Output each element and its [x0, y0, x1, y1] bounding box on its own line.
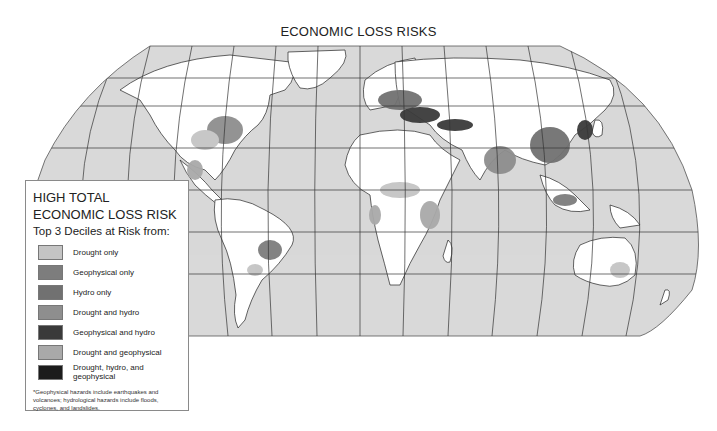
legend-swatch [38, 325, 63, 340]
legend-panel: HIGH TOTAL ECONOMIC LOSS RISK Top 3 Deci… [25, 180, 189, 411]
legend-label: Drought and hydro [73, 308, 139, 317]
legend-footnote: *Geophysical hazards include earthquakes… [33, 388, 181, 412]
legend-title: HIGH TOTAL ECONOMIC LOSS RISK [33, 189, 181, 223]
legend-item: Geophysical only [33, 262, 181, 282]
legend-label: Geophysical and hydro [73, 328, 155, 337]
legend-item: Drought and hydro [33, 302, 181, 322]
legend-swatch [38, 265, 63, 280]
legend-item: Drought, hydro, and geophysical [33, 362, 181, 382]
legend-item: Hydro only [33, 282, 181, 302]
legend-swatch [38, 305, 63, 320]
legend-swatch [38, 345, 63, 360]
legend-item: Geophysical and hydro [33, 322, 181, 342]
legend-item: Drought and geophysical [33, 342, 181, 362]
legend-label: Geophysical only [73, 268, 134, 277]
legend-label: Drought and geophysical [73, 348, 162, 357]
legend-label: Drought only [73, 248, 118, 257]
legend-swatch [38, 285, 63, 300]
legend-label: Hydro only [73, 288, 111, 297]
legend-item: Drought only [33, 242, 181, 262]
legend-swatch [38, 365, 63, 380]
legend-subtitle: Top 3 Deciles at Risk from: [33, 225, 181, 237]
legend-swatch [38, 245, 63, 260]
legend-label: Drought, hydro, and geophysical [73, 363, 181, 381]
